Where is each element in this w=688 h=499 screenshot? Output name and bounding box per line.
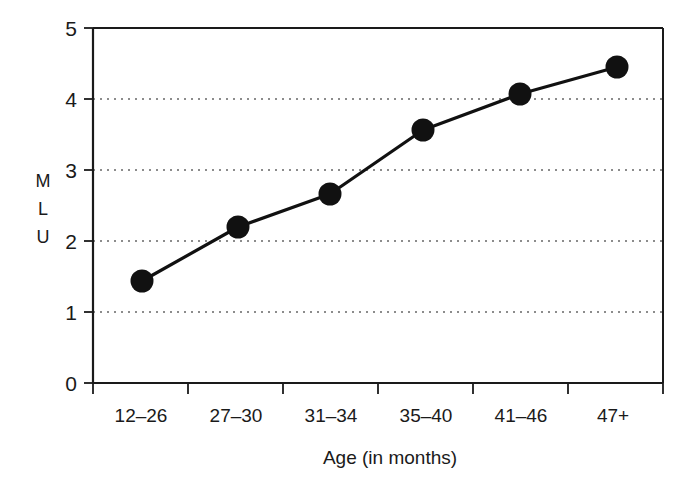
y-tick-label-0: 0 xyxy=(65,372,77,395)
y-axis-title-char-u: U xyxy=(37,227,50,247)
y-tick-labels: 5 4 3 2 1 0 xyxy=(65,17,77,395)
data-point-2 xyxy=(319,183,342,206)
y-tick-label-4: 4 xyxy=(65,88,77,111)
data-point-0 xyxy=(131,270,154,293)
y-tick-label-2: 2 xyxy=(65,230,77,253)
chart-figure: 5 4 3 2 1 0 M L U 12–26 27–30 31–34 xyxy=(0,0,688,499)
plot-area-background xyxy=(93,28,663,383)
data-point-3 xyxy=(412,119,435,142)
x-axis-title: Age (in months) xyxy=(323,447,457,468)
data-point-5 xyxy=(606,56,629,79)
y-axis-title: M L U xyxy=(36,171,51,247)
mlu-by-age-line-chart: 5 4 3 2 1 0 M L U 12–26 27–30 31–34 xyxy=(0,0,688,499)
x-tick-label-4: 41–46 xyxy=(495,405,548,426)
y-tick-label-1: 1 xyxy=(65,301,77,324)
data-point-4 xyxy=(509,83,532,106)
x-tick-label-1: 27–30 xyxy=(210,405,263,426)
y-tick-label-5: 5 xyxy=(65,17,77,40)
x-tick-label-3: 35–40 xyxy=(400,405,453,426)
x-tick-label-2: 31–34 xyxy=(305,405,358,426)
x-tick-label-5: 47+ xyxy=(597,405,629,426)
y-tick-marks xyxy=(84,28,93,383)
x-tick-labels: 12–26 27–30 31–34 35–40 41–46 47+ xyxy=(115,405,630,426)
data-point-1 xyxy=(227,216,250,239)
y-axis-title-char-l: L xyxy=(38,199,48,219)
x-tick-label-0: 12–26 xyxy=(115,405,168,426)
x-tick-marks xyxy=(93,383,663,394)
y-tick-label-3: 3 xyxy=(65,159,77,182)
y-axis-title-char-m: M xyxy=(36,171,51,191)
